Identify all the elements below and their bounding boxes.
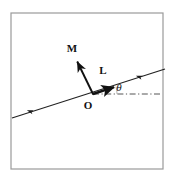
vector-diagram-figure: M L O θ [0,0,173,181]
label-vector-m: M [67,42,78,54]
origin-point [92,93,94,95]
label-origin-o: O [84,99,93,111]
figure-canvas: M L O θ [0,0,173,181]
label-angle-theta: θ [116,81,122,93]
figure-background [0,0,173,181]
label-vector-l: L [99,64,106,76]
